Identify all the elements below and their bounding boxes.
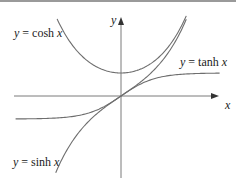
- y-axis-label: y: [110, 13, 117, 27]
- cosh-label: y = cosh x: [13, 26, 63, 40]
- function-plot: y = cosh x y = tanh x y = sinh x y x: [0, 0, 236, 181]
- axes: [14, 17, 219, 178]
- x-axis-label: x: [224, 98, 231, 112]
- sinh-label: y = sinh x: [12, 155, 60, 169]
- y-axis-arrow-icon: [118, 17, 124, 25]
- tanh-label: y = tanh x: [179, 55, 228, 69]
- x-axis-arrow-icon: [211, 93, 219, 99]
